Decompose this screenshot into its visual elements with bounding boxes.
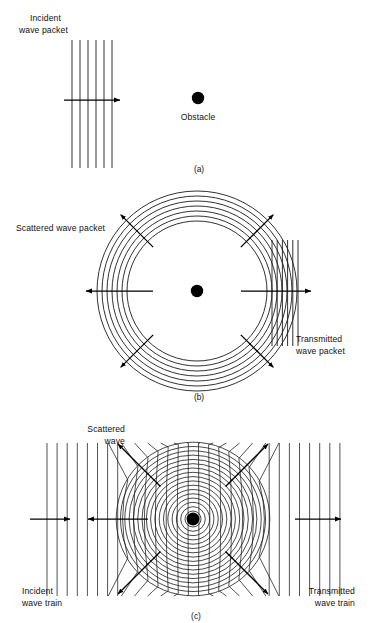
wave-train-line <box>229 443 240 452</box>
wave-train-line <box>121 571 138 596</box>
incident-wave-train-label-line1: Incident <box>22 586 53 596</box>
radial-arrow <box>121 215 154 248</box>
incident-wave-train-label-line2: wave train <box>21 598 62 608</box>
transmitted-wave-train-label-line1: Transmitted <box>309 586 355 596</box>
wave-train-line <box>148 587 158 596</box>
panel-b-obstacle <box>191 285 203 297</box>
panel-a: Incident wave packet Obstacle (a) <box>18 13 215 174</box>
radial-arrow <box>226 444 268 486</box>
wave-train-line <box>239 443 253 458</box>
radial-arrow <box>226 552 268 594</box>
scattered-wave-label-line2: wave <box>104 436 126 446</box>
panel-c: Scattered wave Incident wave train Trans… <box>21 424 355 621</box>
wave-train-line <box>135 443 149 458</box>
wave-train-line <box>229 586 240 596</box>
panel-c-caption: (c) <box>191 611 201 621</box>
obstacle-label: Obstacle <box>181 112 216 122</box>
panel-a-obstacle <box>192 92 204 104</box>
wave-train-line <box>219 447 221 590</box>
transmitted-wave-train-label-line2: wave train <box>314 598 355 608</box>
scattered-wave-packet-label: Scattered wave packet <box>16 223 106 233</box>
incident-wave-packet-label-line2: wave packet <box>18 25 68 35</box>
panel-b-caption: (b) <box>194 392 204 402</box>
incident-wave-packet-label-line1: Incident <box>30 13 61 23</box>
panel-b: Scattered wave packet Transmitted wave p… <box>16 191 345 402</box>
panel-c-obstacle <box>187 513 200 526</box>
radial-arrow <box>241 215 274 248</box>
panel-a-caption: (a) <box>194 164 204 174</box>
wave-train-line <box>148 443 158 451</box>
transmitted-wave-packet-label-line1: Transmitted <box>296 334 342 344</box>
figure-canvas: Incident wave packet Obstacle (a) Scatte… <box>0 0 377 623</box>
radial-arrow <box>121 335 154 368</box>
wave-train-line <box>177 444 178 593</box>
transmitted-wave-packet-label-line2: wave packet <box>295 346 345 356</box>
radial-arrow <box>118 444 160 486</box>
wave-train-line <box>135 580 149 596</box>
radial-arrow <box>241 335 274 368</box>
radial-arrow <box>118 552 160 594</box>
wave-train-line <box>259 481 264 556</box>
panel-a-incident-plane-wave <box>72 40 112 168</box>
wave-scattering-figure: Incident wave packet Obstacle (a) Scatte… <box>0 0 377 623</box>
wave-train-line <box>239 580 253 596</box>
scattered-wave-label-line1: Scattered <box>87 424 125 434</box>
